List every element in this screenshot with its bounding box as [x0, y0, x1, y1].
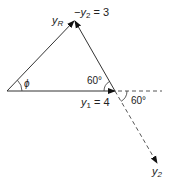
label-neg-y2: −y2 = 3	[74, 6, 109, 20]
label-angle-inner: 60°	[87, 75, 102, 86]
label-yR: yR	[51, 14, 64, 28]
label-y2: y2	[151, 165, 163, 179]
vector-yR	[7, 21, 74, 91]
angle-arc-phi	[18, 80, 23, 91]
label-phi: ϕ	[24, 78, 30, 89]
label-y1: y1 = 4	[80, 96, 110, 110]
label-angle-outer: 60°	[131, 95, 146, 106]
angle-arc-inner-60	[104, 82, 110, 92]
vector-diagram: yR −y2 = 3 ϕ 60° y1 = 4 60° y2	[0, 0, 169, 187]
angle-arc-outer-60	[121, 91, 127, 101]
